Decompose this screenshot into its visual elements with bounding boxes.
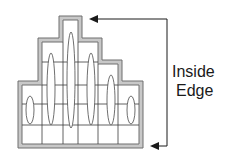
ellipse-col-4 (87, 53, 95, 125)
ellipse-col-5 (107, 75, 115, 125)
ellipse-col-3 (67, 32, 75, 128)
arrow-head-bottom-icon (150, 142, 159, 150)
ellipse-col-1 (26, 96, 34, 124)
label-line-2: Edge (172, 81, 215, 100)
ellipse-col-2 (47, 53, 55, 125)
inside-edge-label: Inside Edge (172, 62, 215, 100)
arrow-head-top-icon (89, 15, 98, 23)
ellipse-col-6 (127, 96, 135, 124)
label-line-1: Inside (172, 62, 215, 81)
stepped-outline (18, 16, 143, 148)
